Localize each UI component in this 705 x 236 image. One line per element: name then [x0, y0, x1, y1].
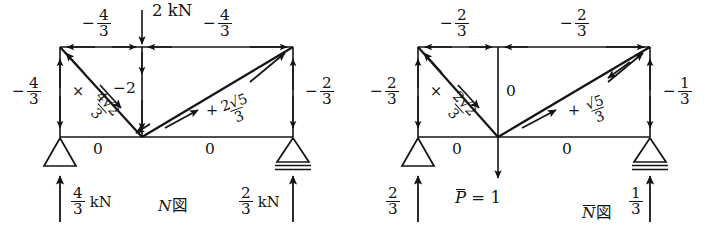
left-right-reaction-label: 2 3 kN	[238, 186, 280, 218]
left-bottom-chord-left-label: 0	[93, 142, 103, 158]
left-vertical-label: − 4 3	[12, 76, 42, 108]
right-diagonal-sign: ×	[430, 84, 442, 99]
right-reaction-label: 2 3	[385, 186, 405, 218]
left-reaction-label: 4 3 kN	[70, 186, 112, 218]
right-bottom-chord-left-label: 0	[452, 142, 462, 158]
left-top-chord-right-label: − 4 3	[203, 8, 233, 40]
left-applied-load-label: 2 kN	[152, 3, 192, 20]
truss-figure: − 4 3 − 4 3 2 kN − 4 3 −	[0, 0, 705, 236]
right-left-vertical-label: − 2 3	[370, 76, 400, 108]
right-right-reaction-label: 1 3	[628, 186, 648, 218]
left-pin-support	[44, 138, 76, 166]
right-roller-support	[632, 138, 668, 170]
right-bottom-chord-right-label: 0	[562, 142, 572, 158]
right-center-vertical-label: 0	[506, 84, 516, 100]
left-right-diagonal-sign: +	[206, 103, 218, 118]
left-bottom-chord-right-label: 0	[205, 142, 215, 158]
left-panel-caption: N図	[158, 199, 188, 215]
left-right-vertical-label: − 2 3	[305, 76, 335, 108]
right-right-diagonal-sign: +	[568, 103, 580, 118]
right-top-chord-left-label: − 2 3	[440, 8, 470, 40]
right-pin-support	[402, 138, 434, 166]
left-diagonal-sign: ×	[72, 84, 84, 99]
right-top-chord-right-label: − 2 3	[560, 8, 590, 40]
right-right-vertical-label: − 1 3	[663, 76, 693, 108]
left-top-chord-left-label: − 4 3	[82, 8, 112, 40]
right-reaction-arrows	[418, 176, 650, 222]
left-roller-support	[275, 138, 311, 170]
right-applied-load-label: P = 1	[455, 190, 501, 207]
right-panel-caption: N図	[582, 206, 612, 222]
